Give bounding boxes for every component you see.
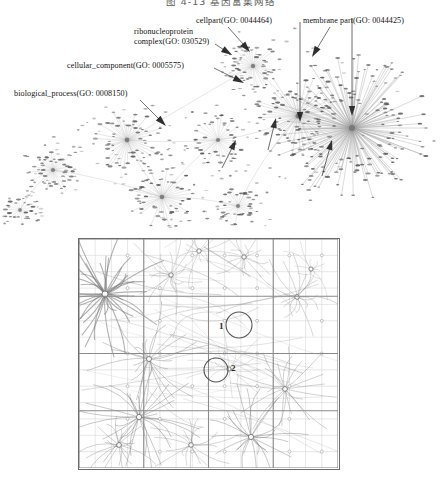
hub-far-left xyxy=(18,208,22,212)
hub-cellular-component xyxy=(160,195,165,200)
annotation-label-biological-process: biological_process(GO: 0008150) xyxy=(14,89,127,99)
annotation-label-ribonucleoprotein: ribonucleoprotein complex(GO: 030529) xyxy=(134,27,226,46)
annotation-label-cellpart: cellpart(GO: 0044464) xyxy=(196,16,272,26)
grid-marker-2: 2 xyxy=(231,363,236,373)
hub-membrane-part xyxy=(349,125,355,131)
annotation-arrowhead xyxy=(233,75,244,83)
cluster-pointer-arrow xyxy=(271,118,277,129)
top-figure-caption: 图 4-13 基因富集网络 xyxy=(0,0,442,8)
hub-lower-mid xyxy=(236,204,240,208)
grid-marker-1: 1 xyxy=(219,321,224,331)
hub-ribonucleoprotein xyxy=(251,64,255,68)
hub-small-left xyxy=(51,168,55,172)
hub-small-mid xyxy=(216,138,220,142)
annotation-label-membrane-part: membrane part(GO: 0044425) xyxy=(303,16,404,26)
grid-map-figure: 12 xyxy=(78,238,340,470)
annotation-arrowhead xyxy=(221,46,232,55)
grid-map-canvas xyxy=(79,239,338,468)
hub-biological-process xyxy=(125,138,130,143)
annotation-label-cellular-component: cellular_component(GO: 0005575) xyxy=(67,61,184,71)
figure-page: 图 4-13 基因富集网络 cellpart(GO: 0044464)membr… xyxy=(0,0,442,490)
network-edges xyxy=(5,47,426,226)
network-nodes xyxy=(2,27,436,228)
